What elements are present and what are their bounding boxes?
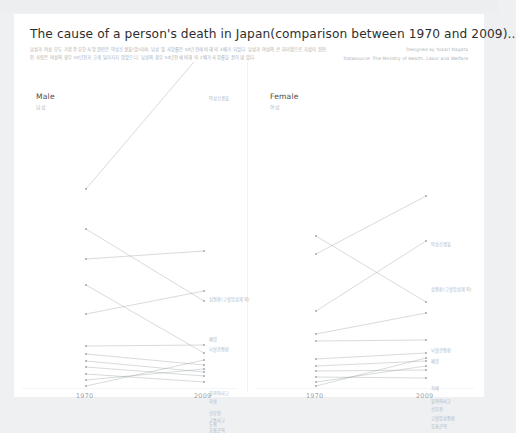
slope-endpoint	[203, 364, 205, 366]
slope-endpoint	[85, 228, 87, 230]
slope-line	[86, 229, 204, 301]
series-label: 심질환(고혈압성제외)	[431, 286, 471, 292]
slope-endpoint	[315, 358, 317, 360]
slope-endpoint	[203, 290, 205, 292]
slope-endpoint	[203, 371, 205, 373]
slope-line	[316, 358, 426, 386]
slope-line	[316, 366, 426, 382]
panel-female: Female 여성 1970 2009 악성신생물심질환(고혈압성제외)뇌혈관질…	[248, 62, 484, 397]
slope-endpoint	[425, 240, 427, 242]
slope-line	[316, 353, 426, 359]
slope-endpoint	[203, 352, 205, 354]
slope-line	[316, 196, 426, 254]
slope-endpoint	[203, 344, 205, 346]
slope-line	[86, 374, 204, 382]
slope-endpoint	[85, 313, 87, 315]
series-label: 뇌혈관질환	[431, 347, 452, 353]
slope-endpoint	[85, 353, 87, 355]
slope-line	[316, 370, 426, 371]
slope-endpoint	[315, 376, 317, 378]
slope-endpoint	[85, 188, 87, 190]
slope-endpoint	[85, 360, 87, 362]
axis-label-left-male: 1970	[76, 392, 93, 400]
slope-line	[86, 291, 204, 314]
slope-endpoint	[425, 312, 427, 314]
slope-endpoint	[425, 365, 427, 367]
window-topbar	[0, 0, 498, 13]
credits-block: Designed by Yukari Nagata Datasource: Th…	[343, 46, 468, 64]
slope-endpoint	[315, 333, 317, 335]
slope-endpoint	[203, 368, 205, 370]
series-label: 자살	[209, 398, 217, 404]
slope-endpoint	[315, 365, 317, 367]
axis-label-left-female: 1970	[306, 392, 323, 400]
slope-endpoint	[85, 385, 87, 387]
slope-line	[316, 241, 426, 311]
slope-endpoint	[425, 195, 427, 197]
chart-card: The cause of a person's death in Japan(c…	[14, 14, 484, 397]
panel-male: Male 남성 1970 2009 악성신생물심질환(고혈압성제외)뇌혈관질환폐…	[14, 62, 247, 397]
slope-endpoint	[425, 301, 427, 303]
panel-male-baseline	[22, 388, 238, 389]
series-label: 악성신생물	[209, 95, 230, 101]
slope-endpoint	[203, 381, 205, 383]
series-label: 고혈압성질환	[431, 415, 456, 421]
slope-line	[86, 360, 204, 386]
credit-designer: Designed by Yukari Nagata	[343, 46, 468, 55]
slope-line	[86, 345, 204, 346]
slope-endpoint	[85, 284, 87, 286]
series-label: 심질환(고혈압성제외)	[209, 296, 249, 302]
slope-endpoint	[315, 370, 317, 372]
slope-endpoint	[425, 339, 427, 341]
series-label: 폐염	[209, 336, 217, 342]
slope-endpoint	[85, 366, 87, 368]
slope-endpoint	[203, 250, 205, 252]
series-label: 불의의사고	[209, 390, 230, 396]
slope-endpoint	[425, 369, 427, 371]
series-label: 치매	[431, 385, 439, 391]
slope-line	[316, 313, 426, 334]
series-label: 신부전	[209, 410, 221, 416]
slope-endpoint	[315, 385, 317, 387]
slope-line	[86, 354, 204, 365]
slope-line	[86, 62, 204, 189]
slope-line	[86, 251, 204, 259]
series-label: 뇌혈관질환	[209, 346, 230, 352]
slope-endpoint	[203, 375, 205, 377]
slope-endpoint	[85, 258, 87, 260]
slope-line	[316, 377, 426, 378]
slope-endpoint	[425, 357, 427, 359]
slope-line	[316, 361, 426, 366]
slope-line	[316, 340, 426, 341]
slope-endpoint	[425, 352, 427, 354]
slope-endpoint	[203, 300, 205, 302]
slope-line	[316, 236, 426, 302]
series-label: 신부전	[431, 406, 443, 412]
slope-endpoint	[85, 345, 87, 347]
slope-line	[86, 361, 204, 372]
panel-female-baseline	[256, 388, 474, 389]
subtitle-description: 남성과 여성 모두 가장 주요한 사망 원인은 악성신생물(암)이며, 남성 및…	[30, 46, 330, 62]
series-label: 악성신생물	[431, 241, 452, 247]
slope-endpoint	[315, 310, 317, 312]
slope-endpoint	[315, 253, 317, 255]
slope-endpoint	[85, 379, 87, 381]
slope-line	[86, 285, 204, 353]
slope-endpoint	[85, 373, 87, 375]
series-label: 호흡곤역	[209, 427, 225, 433]
slope-endpoint	[315, 235, 317, 237]
slope-endpoint	[425, 377, 427, 379]
slope-endpoint	[315, 340, 317, 342]
slope-endpoint	[315, 381, 317, 383]
series-label: 폐염	[431, 358, 439, 364]
slope-endpoint	[425, 360, 427, 362]
slope-endpoint	[203, 359, 205, 361]
series-label: 불의의사고	[431, 398, 452, 404]
series-label: 호흡곤역	[431, 423, 447, 429]
page-title: The cause of a person's death in Japan(c…	[30, 27, 516, 41]
